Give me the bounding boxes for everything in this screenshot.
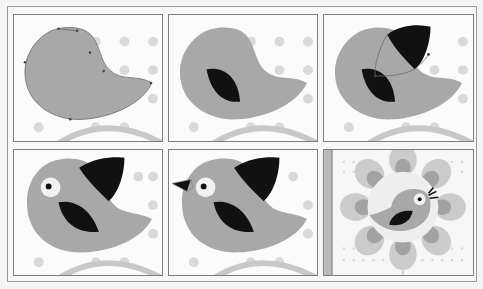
bird-with-top-wing-illustration	[324, 15, 473, 141]
panel-step-3	[323, 14, 474, 142]
bird-body-shape	[25, 27, 152, 119]
branch-arc	[54, 128, 162, 141]
bird-with-eye-illustration	[14, 150, 162, 275]
pupil	[46, 183, 52, 189]
side-stripe	[324, 150, 332, 275]
panel-step-2	[168, 14, 318, 142]
bird-on-flower-illustration	[324, 150, 473, 275]
panel-step-6	[323, 149, 474, 276]
panel-step-5	[168, 149, 318, 276]
bird-body-shape	[180, 27, 307, 119]
bird-body-path-illustration	[14, 15, 162, 141]
panel-step-1	[13, 14, 163, 142]
panel-step-4	[13, 149, 163, 276]
bird-with-beak-illustration	[169, 150, 317, 275]
bird-with-wing-illustration	[169, 15, 317, 141]
